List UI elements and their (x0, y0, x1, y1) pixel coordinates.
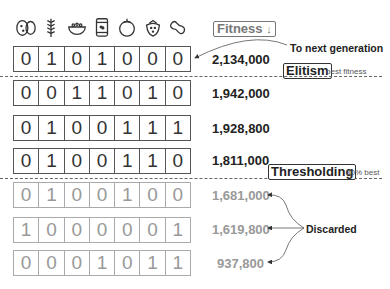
fitness-value: 1,681,000 (212, 188, 270, 203)
gene-cell: 0 (115, 251, 140, 275)
elitism-note: best fitness (326, 67, 366, 76)
fitness-value: 1,811,000 (212, 153, 269, 168)
gene-cell: 0 (115, 47, 140, 71)
gene-cell: 1 (39, 47, 64, 71)
gene-cell: 0 (166, 183, 190, 207)
gene-cell: 1 (140, 149, 165, 173)
gene-cell: 0 (14, 183, 39, 207)
chromosome-row: 0 1 0 1 0 0 0 (13, 46, 191, 72)
salad-bowl-icon (64, 12, 89, 42)
gene-cell: 0 (14, 81, 39, 105)
chromosome-row: 0 0 1 1 0 1 0 (13, 80, 191, 106)
fitness-label: Fitness (217, 21, 263, 36)
wheat-icon (38, 12, 63, 42)
gene-cell: 1 (166, 116, 190, 140)
gene-cell: 0 (14, 149, 39, 173)
gene-cell: 0 (166, 47, 190, 71)
gene-cell: 1 (166, 218, 190, 242)
strawberry-icon (140, 12, 165, 42)
gene-cell: 0 (90, 218, 115, 242)
gene-cell: 0 (140, 47, 165, 71)
fitness-value: 937,800 (217, 256, 264, 271)
tomato-icon (115, 12, 140, 42)
chromosome-row: 1 0 0 0 0 0 1 (13, 217, 191, 243)
gene-cell: 0 (140, 183, 165, 207)
gene-cell: 0 (14, 47, 39, 71)
gene-cell: 0 (115, 218, 140, 242)
gene-cell: 1 (115, 149, 140, 173)
gene-cell: 0 (90, 116, 115, 140)
beans-can-icon (89, 12, 114, 42)
gene-cell: 0 (65, 47, 90, 71)
gene-cell: 0 (65, 218, 90, 242)
gene-cell: 0 (90, 183, 115, 207)
fitness-value: 1,942,000 (212, 86, 270, 101)
sort-down-icon: ↓ (266, 23, 272, 35)
gene-cell: 1 (115, 183, 140, 207)
gene-cell: 0 (166, 149, 190, 173)
thresholding-tag: Thresholding (268, 164, 356, 180)
next-generation-label: To next generation (290, 42, 383, 54)
elitism-divider (0, 76, 382, 77)
gene-cell: 1 (39, 116, 64, 140)
thresholding-note: 80% best (346, 168, 379, 177)
chromosome-row: 0 1 0 0 1 1 0 (13, 148, 191, 174)
discarded-label: Discarded (306, 223, 357, 235)
gene-cell: 0 (14, 251, 39, 275)
gene-cell: 1 (166, 251, 190, 275)
gene-cell: 0 (39, 81, 64, 105)
gene-cell: 1 (90, 47, 115, 71)
gene-cell: 1 (39, 183, 64, 207)
peanut-icon (166, 12, 191, 42)
gene-cell: 1 (140, 81, 165, 105)
gene-cell: 1 (14, 218, 39, 242)
gene-cell: 1 (90, 251, 115, 275)
gene-cell: 0 (39, 251, 64, 275)
fitness-header: Fitness ↓ (213, 21, 276, 37)
fitness-value: 1,928,800 (212, 121, 270, 136)
chromosome-row: 0 1 0 0 1 0 0 (13, 182, 191, 208)
gene-cell: 0 (14, 116, 39, 140)
gene-cell: 0 (65, 149, 90, 173)
gene-cell: 0 (65, 116, 90, 140)
fitness-value: 1,619,800 (212, 222, 270, 237)
gene-cell: 1 (65, 81, 90, 105)
gene-cell: 1 (140, 251, 165, 275)
gene-cell: 0 (39, 218, 64, 242)
gene-cell: 1 (115, 116, 140, 140)
gene-cell: 0 (166, 81, 190, 105)
gene-cell: 0 (65, 183, 90, 207)
gene-cell: 0 (65, 251, 90, 275)
gene-cell: 1 (140, 116, 165, 140)
chromosome-row: 0 1 0 0 1 1 1 (13, 115, 191, 141)
gene-cell: 1 (39, 149, 64, 173)
potatoes-icon (13, 12, 38, 42)
fitness-value: 2,134,000 (212, 52, 270, 67)
gene-cell: 0 (140, 218, 165, 242)
gene-cell: 0 (90, 149, 115, 173)
gene-cell: 0 (115, 81, 140, 105)
gene-icons-header (13, 12, 191, 42)
chromosome-row: 0 0 0 1 0 1 1 (13, 250, 191, 276)
gene-cell: 1 (90, 81, 115, 105)
